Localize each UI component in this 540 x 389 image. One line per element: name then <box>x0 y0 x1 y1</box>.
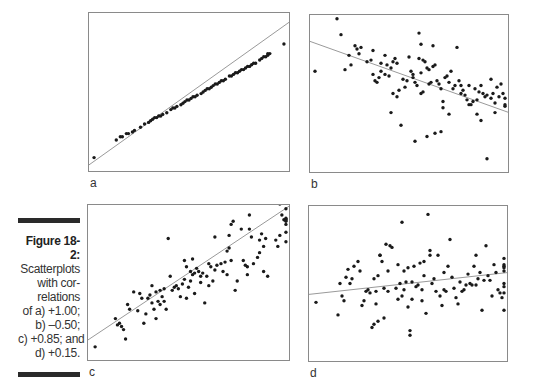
data-point <box>428 254 431 257</box>
regression-line <box>88 22 290 166</box>
data-point <box>368 291 371 294</box>
data-point <box>396 263 399 266</box>
data-point <box>215 264 218 267</box>
data-point <box>400 294 403 297</box>
data-point <box>225 273 228 276</box>
data-point <box>223 260 226 263</box>
panel-a: a <box>88 12 290 192</box>
data-point <box>282 42 285 45</box>
data-point <box>158 303 161 306</box>
data-point <box>391 60 394 63</box>
data-point <box>148 293 151 296</box>
data-point <box>262 270 265 273</box>
data-point <box>154 290 157 293</box>
data-point <box>431 44 434 47</box>
data-point <box>175 284 178 287</box>
data-point <box>365 60 368 63</box>
data-point <box>183 278 186 281</box>
data-point <box>384 243 387 246</box>
data-point <box>356 260 359 263</box>
data-point <box>161 113 164 116</box>
data-point <box>464 283 467 286</box>
data-point <box>484 244 487 247</box>
data-point <box>122 328 125 331</box>
data-point <box>160 295 163 298</box>
data-point <box>400 221 403 224</box>
data-point <box>502 285 505 288</box>
data-point <box>423 60 426 63</box>
data-point <box>278 234 281 237</box>
data-point <box>437 82 440 85</box>
data-point <box>371 73 374 76</box>
data-point <box>120 325 123 328</box>
data-point <box>494 271 497 274</box>
data-point <box>498 291 501 294</box>
data-points <box>313 17 506 160</box>
data-point <box>447 81 450 84</box>
data-point <box>481 92 484 95</box>
caption-title: Figure 18-2: <box>18 234 80 262</box>
data-point <box>489 97 492 100</box>
caption-bottom-bar <box>18 372 80 377</box>
data-point <box>254 62 257 65</box>
data-point <box>426 213 429 216</box>
data-point <box>475 112 478 115</box>
data-point <box>492 263 495 266</box>
data-point <box>350 277 353 280</box>
data-point <box>442 271 445 274</box>
data-point <box>144 312 147 315</box>
data-point <box>362 299 365 302</box>
data-point <box>124 337 127 340</box>
data-point <box>476 277 479 280</box>
data-point <box>143 122 146 125</box>
data-point <box>393 57 396 60</box>
data-point <box>444 290 447 293</box>
data-point <box>432 277 435 280</box>
data-point <box>370 326 373 329</box>
data-point <box>425 135 428 138</box>
data-point <box>495 85 498 88</box>
data-point <box>342 299 345 302</box>
panel-b: b <box>309 14 509 193</box>
data-point <box>485 93 488 96</box>
data-point <box>376 274 379 277</box>
data-point <box>430 282 433 285</box>
data-point <box>358 269 361 272</box>
data-point <box>114 317 117 320</box>
data-point <box>195 267 198 270</box>
data-point <box>252 262 255 265</box>
panel-c: c <box>87 204 290 381</box>
data-point <box>126 303 129 306</box>
caption-line: b) –0.50; <box>18 318 80 332</box>
data-point <box>199 281 202 284</box>
data-point <box>246 273 249 276</box>
data-point <box>466 272 469 275</box>
data-point <box>418 261 421 264</box>
data-point <box>459 84 462 87</box>
data-point <box>284 207 287 210</box>
data-point <box>488 279 491 282</box>
data-point <box>410 280 413 283</box>
data-point <box>162 287 165 290</box>
data-point <box>258 238 261 241</box>
data-point <box>227 234 230 237</box>
data-point <box>118 322 121 325</box>
data-point <box>169 275 172 278</box>
data-point <box>371 49 374 52</box>
data-point <box>411 76 414 79</box>
data-point <box>471 100 474 103</box>
data-point <box>427 68 430 71</box>
data-point <box>195 94 198 97</box>
scatterplot-c <box>87 204 290 361</box>
regression-line <box>87 206 290 341</box>
data-point <box>503 97 506 100</box>
data-point <box>489 77 492 80</box>
data-point <box>395 95 398 98</box>
data-point <box>340 294 343 297</box>
data-point <box>465 98 468 101</box>
data-point <box>386 290 389 293</box>
data-point <box>197 270 200 273</box>
data-point <box>181 282 184 285</box>
data-point <box>396 298 399 301</box>
data-point <box>387 74 390 77</box>
